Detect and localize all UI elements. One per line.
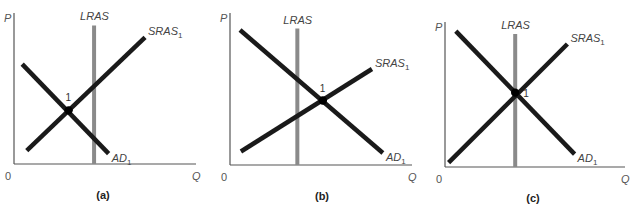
panel-caption: (c) xyxy=(526,192,540,204)
panel-a: PQ0LRASSRAS1AD11(a) xyxy=(4,10,201,201)
ad1-label: AD1 xyxy=(577,152,598,167)
equilibrium-label: 1 xyxy=(66,92,72,103)
ad1-curve xyxy=(240,30,383,153)
sras1-curve xyxy=(27,37,145,150)
equilibrium-point xyxy=(319,96,327,104)
equilibrium-label: 1 xyxy=(320,83,326,94)
panel-caption: (b) xyxy=(315,190,329,202)
sras1-label: SRAS1 xyxy=(570,32,605,47)
x-axis-label: Q xyxy=(192,170,201,182)
equilibrium-point xyxy=(511,88,519,96)
y-axis-label: P xyxy=(220,12,228,24)
x-axis-label: Q xyxy=(621,173,630,185)
ad1-label: AD1 xyxy=(385,151,406,166)
sras1-curve xyxy=(241,69,372,152)
lras-label: LRAS xyxy=(283,14,312,26)
equilibrium-point xyxy=(64,106,72,114)
y-axis-label: P xyxy=(435,21,443,33)
sras1-label: SRAS1 xyxy=(375,57,410,72)
equilibrium-label: 1 xyxy=(523,88,529,99)
sras1-label: SRAS1 xyxy=(148,25,183,40)
lras-label: LRAS xyxy=(80,10,109,22)
panel-b: PQ0LRASSRAS1AD11(b) xyxy=(220,12,417,202)
panel-caption: (a) xyxy=(96,189,110,201)
origin-label: 0 xyxy=(221,171,227,183)
origin-label: 0 xyxy=(436,173,442,185)
ad-as-diagram-figure: PQ0LRASSRAS1AD11(a)PQ0LRASSRAS1AD11(b)PQ… xyxy=(0,0,630,213)
origin-label: 0 xyxy=(5,170,11,182)
x-axis-label: Q xyxy=(408,171,417,183)
panel-c: PQ0LRASSRAS1AD11(c) xyxy=(435,19,630,204)
sras1-curve xyxy=(449,44,568,163)
y-axis-label: P xyxy=(4,12,12,24)
lras-label: LRAS xyxy=(501,19,530,31)
